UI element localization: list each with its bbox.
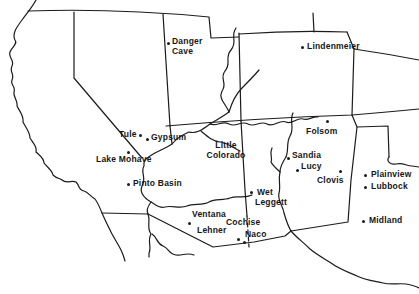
border-ok-tx-panhandle	[352, 115, 389, 157]
southwest-sites-map: DangerCave Lindenmeier Tule Gypsum Lake …	[0, 0, 419, 294]
site-dot-midland	[362, 220, 365, 223]
river-red	[388, 157, 419, 167]
site-label-cochise: Cochise	[226, 218, 260, 228]
site-dot-tule	[139, 134, 142, 137]
site-dot-naco	[243, 241, 246, 244]
site-label-danger-cave: DangerCave	[172, 37, 203, 56]
border-ut-co	[239, 33, 241, 121]
site-label-pinto-basin: Pinto Basin	[133, 179, 182, 189]
region-label-little-colorado: LittleColorado	[202, 141, 250, 160]
wet-leggett-line1: Wet	[257, 187, 273, 197]
site-label-lucy: Lucy	[301, 162, 322, 172]
site-dot-lindenmeier	[301, 46, 304, 49]
site-label-folsom: Folsom	[306, 127, 337, 137]
site-label-gypsum: Gypsum	[151, 133, 186, 143]
border-wy-ne	[313, 13, 314, 32]
river-rio-grande-fork	[271, 148, 280, 172]
site-label-clovis: Clovis	[317, 176, 344, 186]
site-dot-plainview	[364, 174, 367, 177]
river-sonora	[152, 234, 194, 255]
border-40n	[354, 49, 419, 60]
site-label-lindenmeier: Lindenmeier	[307, 42, 360, 52]
site-label-ventana: Ventana	[192, 210, 226, 220]
site-dot-lehner	[237, 238, 240, 241]
site-label-lubbock: Lubbock	[371, 182, 408, 192]
site-dot-lubbock	[364, 186, 367, 189]
site-dot-ventana	[188, 222, 191, 225]
little-colorado-line2: Colorado	[207, 150, 246, 160]
site-dot-clovis	[339, 170, 342, 173]
site-label-midland: Midland	[369, 216, 403, 226]
site-label-plainview: Plainview	[371, 170, 412, 180]
danger-cave-line2: Cave	[172, 46, 193, 56]
site-dot-gypsum	[146, 138, 149, 141]
border-az-nm	[241, 121, 247, 216]
little-colorado-line1: Little	[215, 140, 237, 150]
river-rio-grande-lower	[291, 231, 419, 288]
site-label-lake-mohave: Lake Mohave	[96, 155, 152, 165]
site-label-naco: Naco	[245, 230, 267, 240]
border-42n	[28, 10, 239, 38]
danger-cave-line1: Danger	[172, 36, 203, 46]
border-41n	[239, 31, 347, 34]
border-nv-ut	[163, 14, 170, 126]
site-label-lehner: Lehner	[197, 226, 227, 236]
border-37n	[166, 109, 419, 126]
wet-leggett-line2: Leggett	[255, 197, 287, 207]
site-label-sandia: Sandia	[292, 151, 321, 161]
pacific-coastline	[10, 0, 125, 261]
river-upper-colorado	[229, 70, 259, 112]
site-dot-danger-cave	[167, 42, 170, 45]
site-dot-wet-leggett	[250, 191, 253, 194]
site-label-tule: Tule	[119, 130, 137, 140]
site-dot-lucy	[296, 169, 299, 172]
site-dot-pinto-basin	[127, 183, 130, 186]
site-dot-folsom	[326, 120, 329, 123]
river-gila	[151, 195, 252, 207]
site-label-wet-leggett: WetLeggett	[255, 188, 287, 207]
site-dot-sandia	[287, 157, 290, 160]
border-mexico-california	[102, 213, 148, 214]
